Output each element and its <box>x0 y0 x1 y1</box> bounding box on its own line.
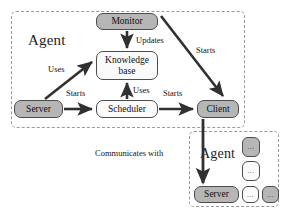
node-placeholder-c[interactable]: ... <box>242 186 259 203</box>
diagram-canvas: Agent Agent Monitor Knowledge base S <box>0 0 287 220</box>
node-placeholder-a[interactable]: ... <box>242 137 260 157</box>
edge-label-scheduler-client: Starts <box>163 88 182 98</box>
edge-label-server-scheduler: Starts <box>66 88 85 98</box>
node-monitor[interactable]: Monitor <box>96 13 158 30</box>
node-client[interactable]: Client <box>197 100 239 118</box>
node-remote-server[interactable]: Server <box>194 186 239 203</box>
node-scheduler[interactable]: Scheduler <box>96 100 158 118</box>
edge-label-monitor-client: Starts <box>196 45 215 55</box>
node-knowledge-base[interactable]: Knowledge base <box>96 51 158 80</box>
edge-label-communicates-with: Communicates with <box>95 148 163 158</box>
edge-label-updates: Updates <box>136 35 164 45</box>
node-server[interactable]: Server <box>14 100 63 118</box>
edge-label-server-knowledge: Uses <box>48 64 65 74</box>
node-placeholder-d[interactable]: ... <box>262 186 279 203</box>
node-placeholder-b[interactable]: ... <box>242 161 260 181</box>
edge-monitor-client <box>161 16 223 96</box>
edge-label-scheduler-knowledge: Uses <box>133 85 150 95</box>
